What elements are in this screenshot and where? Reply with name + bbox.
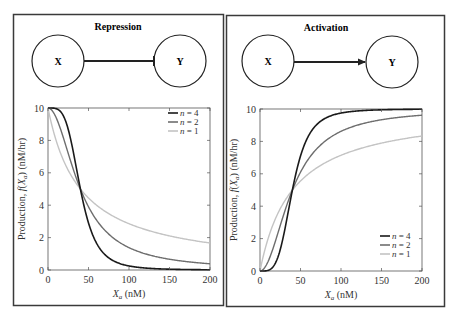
x-axis-label: Xa (nM) xyxy=(324,289,358,302)
x-axis-label: Xa (nM) xyxy=(112,288,146,301)
node-x-label: X xyxy=(264,56,272,67)
y-tick-label: 8 xyxy=(251,136,256,147)
y-tick-label: 4 xyxy=(39,200,44,211)
x-tick-label: 100 xyxy=(122,274,137,285)
panel-activation: Activation X Y 0501001502000246810Xa (nM… xyxy=(227,16,445,307)
x-tick-label: 100 xyxy=(334,275,349,286)
y-tick-label: 4 xyxy=(251,201,256,212)
x-tick-label: 0 xyxy=(258,275,263,286)
y-axis-label: Production, f(Xa) (nM/hr) xyxy=(228,139,241,241)
x-tick-label: 200 xyxy=(415,275,430,286)
x-tick-label: 150 xyxy=(162,274,177,285)
x-tick-label: 200 xyxy=(203,274,218,285)
node-y-label: Y xyxy=(388,57,396,68)
repression-plot: 0501001502000246810Xa (nM)Production, f(… xyxy=(16,103,218,302)
activation-plot: 0501001502000246810Xa (nM)Production, f(… xyxy=(228,104,430,303)
y-tick-label: 6 xyxy=(39,167,44,178)
y-tick-label: 2 xyxy=(251,233,256,244)
panel-repression: Repression X Y 0501001502000246810Xa (nM… xyxy=(14,15,224,306)
legend-label: n = 1 xyxy=(392,249,411,259)
figure: Repression X Y 0501001502000246810Xa (nM… xyxy=(0,0,456,321)
y-axis-label: Production, f(Xa) (nM/hr) xyxy=(16,138,29,240)
y-tick-label: 0 xyxy=(39,265,44,276)
legend-label: n = 1 xyxy=(180,126,199,136)
node-y-label: Y xyxy=(176,56,184,67)
panel-title: Repression xyxy=(94,21,141,32)
node-x-label: X xyxy=(54,56,62,67)
y-tick-label: 2 xyxy=(39,232,44,243)
x-tick-label: 0 xyxy=(46,274,51,285)
panel-border xyxy=(227,16,445,307)
x-tick-label: 50 xyxy=(84,274,94,285)
y-tick-label: 10 xyxy=(34,103,44,114)
y-tick-label: 6 xyxy=(251,168,256,179)
y-tick-label: 10 xyxy=(246,104,256,115)
y-tick-label: 0 xyxy=(251,266,256,277)
y-tick-label: 8 xyxy=(39,135,44,146)
x-tick-label: 50 xyxy=(296,275,306,286)
panel-title: Activation xyxy=(304,22,349,33)
x-tick-label: 150 xyxy=(374,275,389,286)
